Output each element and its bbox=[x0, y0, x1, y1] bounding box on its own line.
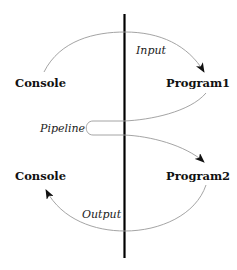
node-console-bottom: Console bbox=[15, 169, 66, 183]
pipeline-diagram: Console Program1 Console Program2 Input … bbox=[0, 0, 237, 270]
pipeline-arrow bbox=[86, 93, 206, 162]
node-console-top: Console bbox=[15, 76, 66, 90]
label-input: Input bbox=[135, 44, 167, 57]
label-output: Output bbox=[82, 208, 122, 221]
node-program1: Program1 bbox=[166, 76, 230, 90]
label-pipeline: Pipeline bbox=[39, 122, 86, 135]
node-program2: Program2 bbox=[166, 169, 230, 183]
output-arrow bbox=[46, 185, 206, 231]
